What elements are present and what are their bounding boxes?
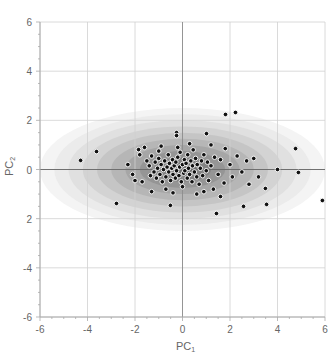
data-point [140,179,145,184]
data-point [168,178,173,183]
data-point [189,159,194,164]
data-point [187,141,192,146]
data-point [147,164,152,169]
data-point [171,191,176,196]
data-point [209,164,214,169]
x-tick-labels: -6-4-20246 [36,324,329,335]
y-axis-title: PC2 [3,157,16,176]
data-point [293,146,298,151]
data-point [212,155,217,160]
data-point [153,160,158,165]
data-point [136,147,141,152]
y-tick-label: 6 [26,17,32,28]
data-point [235,154,240,159]
data-point [218,157,223,162]
y-tick-label: 2 [26,214,32,225]
data-point [320,198,325,203]
x-tick-label: -2 [131,324,140,335]
data-point [137,152,142,157]
data-point [192,170,197,175]
data-point [204,131,209,136]
data-point [240,170,245,175]
data-point [174,160,179,165]
data-point [209,143,214,148]
data-point [223,112,228,117]
data-point [244,159,249,164]
data-point [155,166,160,171]
pca-scatter-chart: -6-4-20246 64202-4-6 PC1 PC2 [0,0,333,357]
data-point [199,159,204,164]
data-point [275,167,280,172]
data-point [251,156,256,161]
data-point [185,152,190,157]
data-point [149,189,154,194]
data-point [158,172,163,177]
data-point [126,162,131,167]
data-point [164,187,169,192]
x-axis-title: PC1 [176,340,195,353]
data-point [204,168,209,173]
data-point [216,172,221,177]
data-point [233,110,238,115]
data-point [296,170,301,175]
data-point [193,156,198,161]
data-point [175,145,180,150]
data-point [159,162,164,167]
data-point [162,159,167,164]
data-point [218,194,223,199]
data-point [179,179,184,184]
data-point [184,161,189,166]
y-tick-label: 2 [26,115,32,126]
data-point [263,186,268,191]
data-point [256,175,261,180]
data-point [148,173,153,178]
data-point [222,181,227,186]
data-point [200,173,205,178]
data-point [149,154,154,159]
y-tick-label: 4 [26,66,32,77]
data-point [180,184,185,189]
data-point [159,144,164,149]
data-point [187,172,192,177]
x-tick-label: 0 [180,324,186,335]
data-point [223,146,228,151]
data-point [130,172,135,177]
data-point [206,178,211,183]
data-point [247,182,252,187]
data-point [230,175,235,180]
data-point [142,145,147,150]
data-point [202,189,207,194]
data-point [241,204,246,209]
data-point [205,160,210,165]
data-point [178,150,183,155]
data-point [156,149,161,154]
data-point [168,203,173,208]
x-tick-label: -6 [36,324,45,335]
data-point [214,211,219,216]
data-point [154,176,159,181]
data-point [190,179,195,184]
data-point [156,156,161,161]
data-point [160,179,165,184]
data-point [174,133,179,138]
data-point [94,149,99,154]
data-point [190,164,195,169]
x-tick-label: -4 [83,324,92,335]
data-point [78,158,83,163]
data-point [166,152,171,157]
data-point [175,155,180,160]
y-tick-label: -6 [23,312,32,323]
x-tick-label: 4 [275,324,281,335]
data-point [197,182,202,187]
data-point [194,175,199,180]
data-point [114,201,119,206]
x-tick-label: 2 [227,324,233,335]
data-point [194,192,199,197]
y-tick-label: 0 [26,165,32,176]
data-point [191,148,196,153]
data-point [145,159,150,164]
y-tick-label: -4 [23,263,32,274]
data-point [198,166,203,171]
x-tick-label: 6 [322,324,328,335]
data-point [202,152,207,157]
